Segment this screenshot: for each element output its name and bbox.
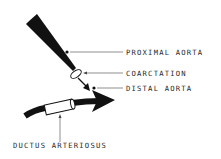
proximal-aorta-wedge xyxy=(26,14,76,71)
distal-aorta-label: DISTAL AORTA xyxy=(126,84,192,93)
coarctation-ring xyxy=(69,68,83,80)
coarctation-label: COARCTATION xyxy=(126,69,187,78)
flow-line xyxy=(78,78,86,86)
coarctation-arrow-icon xyxy=(83,72,87,75)
distal-aorta-dot xyxy=(92,86,95,89)
ductus-flow-tail xyxy=(25,108,45,116)
ductus-cylinder xyxy=(44,99,75,115)
ductus-flow-head-shaft xyxy=(72,101,100,103)
proximal-aorta-label: PROXIMAL AORTA xyxy=(126,48,203,57)
ductus-arteriosus-label: DUCTUS ARTERIOSUS xyxy=(13,141,107,150)
ductus-arrow-icon xyxy=(59,114,62,118)
proximal-aorta-dot xyxy=(65,50,68,53)
coarctation-diagram: PROXIMAL AORTA COARCTATION DISTAL AORTA … xyxy=(0,0,221,159)
